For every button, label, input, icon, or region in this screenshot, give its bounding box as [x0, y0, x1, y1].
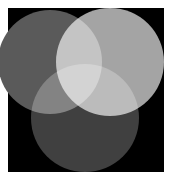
- bottom-circle: [31, 64, 139, 172]
- venn-diagram: [0, 0, 171, 178]
- venn-svg: [0, 0, 171, 178]
